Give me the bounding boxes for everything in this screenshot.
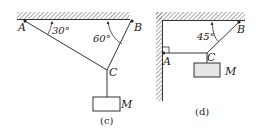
label-A: A [162,55,171,68]
label-angle-45: 45° [196,31,215,42]
arrow-icon [107,21,110,24]
arrow-icon [211,22,214,25]
rope-BC [107,21,131,70]
mass-box [93,97,120,111]
ceiling-hatch [17,12,130,19]
label-C: C [109,66,118,79]
label-A: A [17,21,26,34]
label-C: C [207,51,216,64]
label-B-c: B [133,21,142,34]
figure-c: A 30° 60° C M (c) [17,12,133,126]
arrow-icon [51,21,54,24]
label-angle-60: 60° [93,33,111,44]
wall-hatch [156,12,162,101]
label-M: M [224,65,237,78]
caption-d: (d) [195,106,209,117]
point-B-c [130,19,133,22]
diagram-canvas: A 30° 60° C M (c) B A B C 45° M (d) [0,0,259,130]
label-M: M [120,98,133,111]
figure-d: A B C 45° M (d) [156,12,245,117]
caption-c: (c) [100,115,114,126]
mass-box [194,63,220,77]
label-B: B [236,23,245,36]
ceiling-hatch [156,12,245,20]
label-angle-30: 30° [52,25,70,36]
